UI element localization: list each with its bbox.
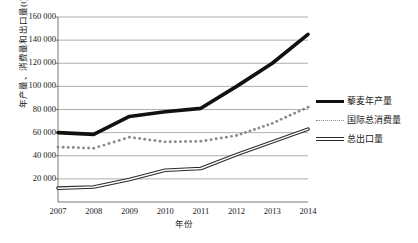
series-dot [62,146,65,149]
series-dot [123,137,126,140]
series-dot [271,122,274,125]
legend-label: 国际总消费量 [347,113,401,128]
series-dot [307,106,310,109]
series-dot [225,136,228,139]
series-dot [128,136,131,139]
chart-legend: 藜麦年产量国际总消费量总出口量 [316,94,418,151]
series-dot [257,126,260,129]
series-line-2-outer [58,129,308,188]
chart-figure: 年产量、消费量和出口量(t) 20 00040 00060 00080 0001… [0,0,418,243]
series-dot [249,130,252,133]
series-dot [199,140,202,143]
series-dot [113,141,116,144]
series-dot [210,138,213,141]
series-dot [92,147,95,150]
x-axis-tick-labels: 20072008200920102011201220132014 [0,206,418,220]
series-dot [72,146,75,149]
series-dot [253,128,256,131]
series-dot [293,112,296,115]
dotted-line-swatch [316,120,344,130]
series-dot [230,135,233,138]
series-dot [184,140,187,143]
series-dot [266,123,269,126]
x-axis-tick-label: 2009 [109,206,149,216]
legend-label: 总出口量 [347,132,383,147]
series-dot [179,140,182,143]
x-axis-title: 年份 [60,219,308,229]
series-dot [205,139,208,142]
series-dot [87,147,90,150]
series-line-2-inner [58,129,308,188]
series-dot [240,133,243,136]
series-dot [220,137,223,140]
x-axis-tick-label: 2010 [145,206,185,216]
series-dot [174,140,177,143]
series-dot [159,140,162,143]
series-dot [148,138,151,141]
series-dot [194,140,197,143]
series-dot [280,118,283,121]
series-dot [153,139,156,142]
legend-label: 藜麦年产量 [347,94,392,109]
series-dot [169,140,172,143]
series-dot [102,144,105,147]
double-line-swatch [316,137,344,141]
series-dot [189,140,192,143]
x-axis-tick-label: 2014 [288,206,328,216]
legend-item[interactable]: 藜麦年产量 [316,94,418,113]
x-axis-tick-label: 2007 [38,206,78,216]
series-dot [215,137,218,140]
series-dot [143,138,146,141]
series-dot [235,134,238,137]
series-dot [108,142,111,145]
series-dot [118,139,121,142]
series-dot [302,108,305,111]
series-dot [164,140,167,143]
series-dot [244,131,247,134]
series-dot [262,125,265,128]
x-axis-tick-label: 2011 [181,206,221,216]
series-line-0 [58,34,308,134]
series-dot [77,146,80,149]
x-axis-tick-label: 2008 [74,206,114,216]
series-dot [82,146,85,149]
gridlines [58,17,308,179]
series-dot [57,146,60,149]
x-axis-tick-label: 2012 [217,206,257,216]
series-lines [57,34,310,188]
legend-item[interactable]: 国际总消费量 [316,113,418,132]
series-dot [289,114,292,117]
series-dot [275,120,278,123]
legend-item[interactable]: 总出口量 [316,132,418,151]
series-dot [284,116,287,119]
x-axis-tick-label: 2013 [252,206,292,216]
series-dot [133,136,136,139]
series-dot [298,110,301,113]
series-dot [138,137,141,140]
solid-thick-line-swatch [316,100,344,112]
series-dot [67,146,70,149]
series-dot [97,145,100,148]
